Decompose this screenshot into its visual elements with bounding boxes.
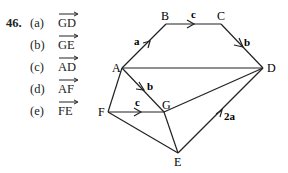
edge-ge (164, 112, 178, 153)
arrow-ed-icon (216, 110, 222, 117)
vector-diagram: A B C D E F G a c b b c 2a (0, 0, 288, 173)
label-ag: b (147, 80, 153, 92)
point-e: E (174, 155, 181, 169)
edge-fe (108, 112, 178, 153)
label-cd: b (244, 36, 250, 48)
edge-gd (164, 68, 263, 112)
point-a: A (112, 61, 121, 75)
point-d: D (267, 61, 276, 75)
point-c: C (217, 9, 225, 23)
point-f: F (98, 105, 105, 119)
label-bc: c (191, 8, 196, 20)
point-b: B (161, 9, 169, 23)
point-g: G (162, 98, 171, 112)
label-fg: c (135, 96, 140, 108)
arrow-ab-icon (143, 41, 150, 48)
label-ab: a (134, 35, 140, 47)
edge-ab (122, 24, 166, 68)
label-ed: 2a (224, 110, 236, 122)
